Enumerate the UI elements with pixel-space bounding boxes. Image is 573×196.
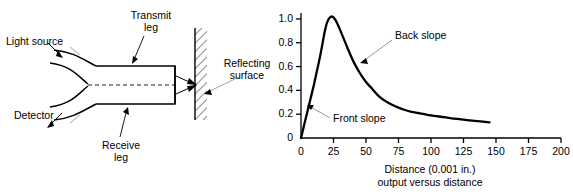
y-tick-label: 0: [257, 132, 293, 143]
figure-root: Light source Detector Transmit leg Recei…: [0, 0, 573, 196]
y-tick-label: 0.4: [257, 84, 293, 95]
front-slope-annotation: Front slope: [333, 113, 386, 125]
y-axis-ticks: [296, 19, 301, 114]
x-tick-label: 200: [541, 146, 573, 157]
y-tick-label: 0.6: [257, 61, 293, 72]
y-tick-label: 0.8: [257, 37, 293, 48]
y-tick-label: 1.0: [257, 13, 293, 24]
x-axis-label-line2: output versus distance: [330, 176, 530, 189]
x-axis-label-line1: Distance (0.001 in.): [330, 163, 530, 176]
output-versus-distance-plot: 00.20.40.60.81.0 0255075100125150175200 …: [0, 0, 573, 196]
back-slope-annotation: Back slope: [395, 30, 446, 42]
x-axis-ticks: [334, 138, 562, 143]
y-tick-label: 0.2: [257, 108, 293, 119]
